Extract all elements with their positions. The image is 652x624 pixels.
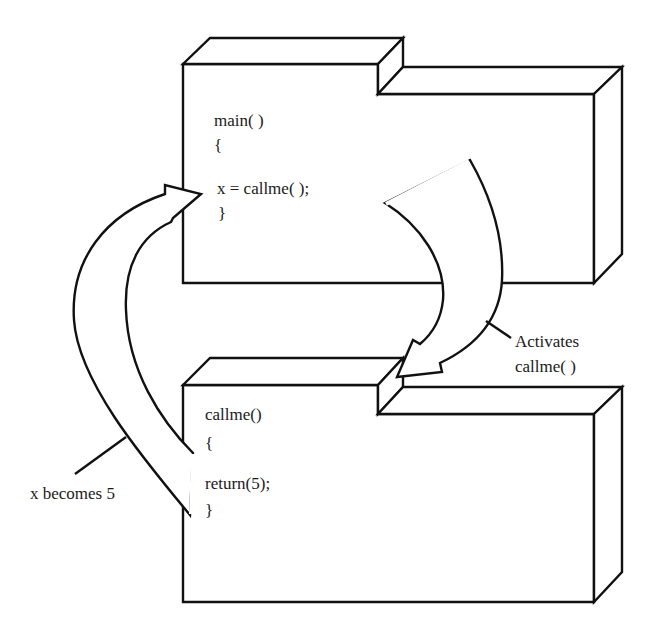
activate-label-leader — [486, 321, 511, 338]
callme-code-line-close-brace: } — [205, 502, 213, 519]
main-code-line-call: x = callme( ); — [217, 180, 309, 197]
function-call-diagram: main( ) { x = callme( ); } callme() { re… — [0, 0, 652, 624]
main-code-line-signature: main( ) — [214, 112, 264, 129]
main-block-right-side — [594, 67, 622, 283]
main-block-step-top — [378, 67, 622, 94]
callme-block-tab-top — [183, 358, 403, 385]
diagram-canvas — [0, 0, 652, 624]
main-block-tab-top — [183, 38, 403, 64]
return-label: x becomes 5 — [30, 485, 115, 502]
main-block-box — [183, 38, 622, 283]
activate-label-line1: Activates — [515, 333, 579, 350]
callme-block-step-top — [378, 387, 622, 414]
callme-code-line-return: return(5); — [205, 475, 270, 492]
return-label-leader — [75, 437, 126, 474]
main-code-line-close-brace: } — [218, 205, 226, 222]
main-code-line-open-brace: { — [214, 137, 222, 154]
main-block-front-face — [183, 64, 594, 283]
callme-block-right-side — [594, 387, 622, 602]
callme-code-line-signature: callme() — [205, 406, 262, 423]
callme-code-line-open-brace: { — [205, 435, 213, 452]
activate-label-line2: callme( ) — [515, 358, 576, 375]
